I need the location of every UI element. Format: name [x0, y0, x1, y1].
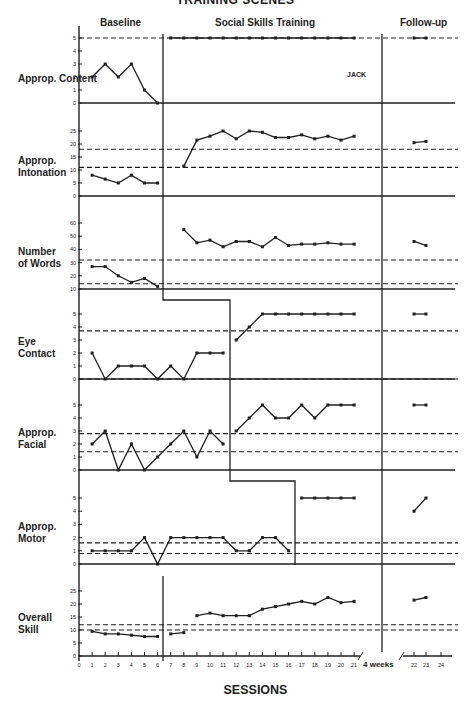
- y-tick-label: 25: [70, 128, 76, 134]
- y-tick-label: 1: [73, 454, 76, 460]
- gap-label: 4 weeks: [362, 660, 395, 669]
- data-line: [92, 631, 158, 636]
- data-point: [169, 536, 172, 539]
- data-point: [340, 601, 343, 604]
- data-line: [92, 431, 223, 470]
- data-line: [92, 175, 158, 183]
- data-point: [182, 536, 185, 539]
- data-point: [195, 614, 198, 617]
- y-tick-label: 10: [70, 286, 76, 292]
- data-point: [222, 443, 225, 446]
- data-point: [117, 632, 120, 635]
- data-point: [104, 378, 107, 381]
- data-line: [92, 64, 158, 103]
- data-line: [414, 598, 426, 601]
- data-point: [425, 404, 428, 407]
- y-tick-label: 5: [73, 495, 76, 501]
- data-point: [326, 135, 329, 138]
- data-point: [353, 404, 356, 407]
- data-point: [300, 313, 303, 316]
- x-tick-label: 22: [411, 662, 417, 668]
- data-point: [413, 313, 416, 316]
- data-point: [222, 536, 225, 539]
- data-point: [300, 600, 303, 603]
- x-tick-label: 8: [182, 662, 185, 668]
- x-tick-label: 20: [338, 662, 344, 668]
- data-point: [222, 352, 225, 355]
- data-point: [287, 244, 290, 247]
- data-point: [235, 37, 238, 40]
- data-point: [130, 365, 133, 368]
- data-point: [248, 240, 251, 243]
- data-point: [209, 352, 212, 355]
- x-tick-label: 23: [423, 662, 429, 668]
- data-point: [209, 536, 212, 539]
- data-point: [248, 614, 251, 617]
- data-point: [130, 174, 133, 177]
- y-tick-label: 1: [73, 87, 76, 93]
- data-point: [287, 603, 290, 606]
- y-tick-label: 4: [73, 508, 76, 514]
- data-point: [248, 130, 251, 133]
- y-tick-label: 4: [73, 324, 76, 330]
- data-point: [117, 469, 120, 472]
- data-point: [261, 313, 264, 316]
- data-point: [274, 37, 277, 40]
- data-point: [117, 365, 120, 368]
- data-point: [143, 277, 146, 280]
- data-point: [413, 141, 416, 144]
- data-point: [425, 37, 428, 40]
- data-point: [425, 596, 428, 599]
- data-point: [169, 365, 172, 368]
- data-point: [222, 614, 225, 617]
- data-point: [130, 281, 133, 284]
- data-point: [156, 635, 159, 638]
- y-tick-label: 2: [73, 535, 76, 541]
- data-point: [91, 265, 94, 268]
- data-point: [326, 497, 329, 500]
- data-point: [413, 510, 416, 513]
- y-tick-label: 3: [73, 61, 76, 67]
- data-point: [235, 430, 238, 433]
- y-tick-label: 40: [70, 246, 76, 252]
- data-point: [248, 37, 251, 40]
- data-point: [91, 174, 94, 177]
- data-point: [130, 634, 133, 637]
- y-tick-label: 5: [73, 311, 76, 317]
- data-point: [326, 404, 329, 407]
- data-point: [222, 130, 225, 133]
- data-point: [313, 37, 316, 40]
- data-point: [287, 549, 290, 552]
- x-tick-label: 10: [207, 662, 213, 668]
- data-point: [182, 228, 185, 231]
- data-point: [300, 404, 303, 407]
- y-tick-label: 1: [73, 548, 76, 554]
- data-point: [209, 430, 212, 433]
- x-tick-label: 24: [438, 662, 444, 668]
- data-point: [91, 630, 94, 633]
- data-point: [248, 417, 251, 420]
- data-line: [414, 141, 426, 142]
- y-tick-label: 50: [70, 233, 76, 239]
- data-point: [156, 285, 159, 288]
- data-point: [425, 497, 428, 500]
- data-point: [340, 37, 343, 40]
- y-tick-label: 5: [73, 402, 76, 408]
- x-tick-label: 7: [169, 662, 172, 668]
- data-point: [143, 365, 146, 368]
- data-point: [274, 605, 277, 608]
- y-tick-label: 3: [73, 337, 76, 343]
- y-tick-label: 10: [70, 627, 76, 633]
- y-tick-label: 0: [73, 193, 76, 199]
- data-point: [182, 631, 185, 634]
- data-point: [91, 352, 94, 355]
- x-tick-label: 19: [325, 662, 331, 668]
- data-point: [117, 274, 120, 277]
- data-line: [236, 314, 354, 340]
- data-point: [235, 614, 238, 617]
- data-point: [195, 241, 198, 244]
- data-point: [353, 37, 356, 40]
- data-point: [235, 549, 238, 552]
- data-point: [300, 133, 303, 136]
- data-point: [353, 497, 356, 500]
